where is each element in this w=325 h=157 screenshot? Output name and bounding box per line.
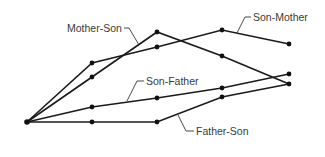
- series-labels: Mother-Son Son-Mother Son-Father Father-…: [67, 11, 308, 137]
- point-marker: [220, 54, 225, 59]
- point-marker: [155, 96, 160, 101]
- label-leaders: [124, 17, 251, 131]
- label-son-father: Son-Father: [146, 75, 199, 87]
- point-marker: [287, 82, 292, 87]
- point-marker: [90, 105, 95, 110]
- point-marker: [287, 42, 292, 47]
- point-marker: [220, 86, 225, 91]
- leader-son-mother: [237, 17, 251, 33]
- line-father-son: [27, 84, 289, 122]
- point-marker: [220, 95, 225, 100]
- point-marker: [90, 120, 95, 125]
- leader-mother-son: [124, 28, 139, 45]
- label-father-son: Father-Son: [196, 125, 249, 137]
- point-marker: [90, 75, 95, 80]
- label-mother-son: Mother-Son: [67, 22, 122, 34]
- point-marker: [155, 120, 160, 125]
- label-son-mother: Son-Mother: [253, 11, 308, 23]
- point-marker: [287, 72, 292, 77]
- point-marker: [90, 61, 95, 66]
- leader-son-father: [127, 81, 144, 101]
- point-marker: [155, 30, 160, 35]
- point-marker: [155, 45, 160, 50]
- point-marker: [220, 28, 225, 33]
- point-marker: [24, 119, 30, 125]
- leader-father-son: [178, 115, 194, 131]
- relationship-path-diagram: Mother-Son Son-Mother Son-Father Father-…: [0, 0, 325, 157]
